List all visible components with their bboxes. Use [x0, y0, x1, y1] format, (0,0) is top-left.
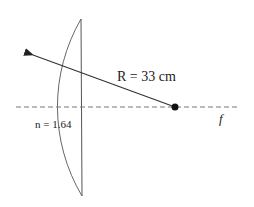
refractive-index-label: n = 1.64: [35, 118, 72, 130]
radius-label: R = 33 cm: [117, 69, 176, 84]
center-of-curvature-dot: [172, 104, 179, 111]
focal-point-label: f: [219, 111, 225, 126]
lens-diagram: R = 33 cm n = 1.64 f: [0, 0, 254, 207]
lens-curved-surface: [57, 19, 82, 196]
